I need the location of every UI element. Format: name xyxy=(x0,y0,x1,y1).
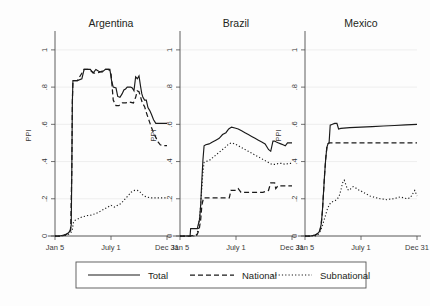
y-tick-label-.6: .6 xyxy=(290,121,299,127)
ppi-multi-panel-chart: Argentina0.2.4.6.81PPIJan 5July 1Dec 31B… xyxy=(0,0,430,306)
y-tick-label-.8: .8 xyxy=(40,84,49,90)
y-tick-label-.6: .6 xyxy=(40,121,49,127)
x-tick-label-july-1: July 1 xyxy=(351,243,371,252)
y-tick-label-1: 1 xyxy=(40,48,49,52)
y-tick-label-.4: .4 xyxy=(290,158,299,164)
panel-group: Argentina0.2.4.6.81PPIJan 5July 1Dec 31B… xyxy=(24,17,429,252)
series-line-brazil-subnational xyxy=(180,143,292,236)
y-tick-label-.8: .8 xyxy=(165,84,174,90)
series-line-mexico-subnational xyxy=(305,180,417,236)
x-tick-label-july-1: July 1 xyxy=(101,243,121,252)
y-tick-label-.2: .2 xyxy=(290,196,299,202)
panel-title-argentina: Argentina xyxy=(89,17,134,29)
x-tick-label-dec-31: Dec 31 xyxy=(405,243,429,252)
y-tick-label-.4: .4 xyxy=(40,158,49,164)
legend-label-national: National xyxy=(242,270,277,281)
y-tick-label-.2: .2 xyxy=(165,196,174,202)
y-tick-label-1: 1 xyxy=(165,48,174,52)
legend-label-subnational: Subnational xyxy=(320,270,370,281)
x-tick-label-jan-5: Jan 5 xyxy=(296,243,314,252)
chart-legend: TotalNationalSubnational xyxy=(76,262,370,288)
y-axis-title: PPI xyxy=(274,129,283,141)
y-tick-label-.6: .6 xyxy=(165,121,174,127)
y-axis-title: PPI xyxy=(149,129,158,141)
chart-figure: Argentina0.2.4.6.81PPIJan 5July 1Dec 31B… xyxy=(0,0,430,306)
y-tick-label-1: 1 xyxy=(290,48,299,52)
y-tick-label-0: 0 xyxy=(40,234,49,238)
panel-title-mexico: Mexico xyxy=(344,17,377,29)
x-tick-label-july-1: July 1 xyxy=(226,243,246,252)
x-tick-label-jan-5: Jan 5 xyxy=(46,243,64,252)
series-line-mexico-national xyxy=(305,143,417,236)
y-tick-label-.8: .8 xyxy=(290,84,299,90)
panel-title-brazil: Brazil xyxy=(223,17,249,29)
x-tick-label-jan-5: Jan 5 xyxy=(171,243,189,252)
panel-mexico: Mexico0.2.4.6.81PPIJan 5July 1Dec 31 xyxy=(274,17,429,252)
series-line-brazil-total xyxy=(180,127,292,236)
y-tick-label-.4: .4 xyxy=(165,158,174,164)
y-tick-label-0: 0 xyxy=(290,234,299,238)
y-axis-title: PPI xyxy=(24,129,33,141)
legend-label-total: Total xyxy=(148,270,168,281)
y-tick-label-0: 0 xyxy=(165,234,174,238)
y-tick-label-.2: .2 xyxy=(40,196,49,202)
series-line-argentina-total xyxy=(55,69,167,236)
